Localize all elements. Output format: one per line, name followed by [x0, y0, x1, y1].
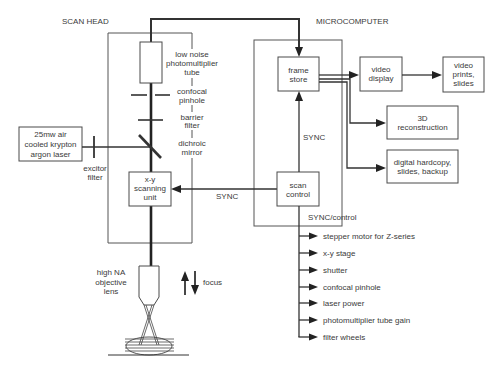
sync-to-scanner-label: SYNC [216, 192, 238, 201]
svg-text:video: video [371, 65, 391, 74]
arrow-right-icon [309, 267, 318, 274]
arrow-right-icon [309, 284, 318, 291]
svg-text:excitor: excitor [83, 164, 107, 173]
objective-lens [139, 266, 159, 305]
svg-text:3D: 3D [417, 114, 427, 123]
svg-text:display: display [369, 74, 394, 83]
arrow-right-icon [309, 300, 318, 307]
sync-to-frame-store-label: SYNC [303, 133, 325, 142]
svg-text:cooled krypton: cooled krypton [24, 140, 76, 149]
svg-text:stepper motor for Z-series: stepper motor for Z-series [323, 232, 415, 241]
confocal-pinhole-label: confocal pinhole [177, 87, 207, 105]
svg-text:slides: slides [453, 79, 473, 88]
svg-text:photomultiplier: photomultiplier [166, 59, 218, 68]
svg-text:reconstruction: reconstruction [397, 123, 447, 132]
scan-head-title: SCAN HEAD [62, 17, 109, 26]
svg-text:scanning: scanning [134, 184, 166, 193]
svg-text:confocal: confocal [177, 87, 207, 96]
sync-to-frame-store-connector [295, 91, 303, 172]
svg-text:filter: filter [184, 121, 199, 130]
sync-control-label: SYNC/control [308, 213, 357, 222]
svg-text:x-y stage: x-y stage [323, 249, 356, 258]
focus-arrows-icon [181, 271, 199, 295]
arrow-right-icon [309, 233, 318, 240]
control-output-item: shutter [299, 266, 348, 275]
arrow-right-icon [349, 71, 359, 79]
video-prints-label: video prints, slides [453, 61, 475, 88]
frame-store-to-video-display-connector [319, 71, 359, 79]
digital-hardcopy-label: digital hardcopy, slides, backup [394, 158, 452, 176]
photomultiplier-tube [140, 42, 162, 83]
focus-label: focus [203, 278, 222, 287]
svg-text:frame: frame [288, 66, 309, 75]
objective-lens-label: high NA objective lens [95, 268, 127, 296]
control-output-item: laser power [299, 299, 365, 308]
arrow-right-icon [309, 317, 318, 324]
svg-text:high NA: high NA [97, 268, 126, 277]
arrow-up-icon [295, 91, 303, 101]
arrow-right-icon [376, 164, 386, 172]
svg-text:store: store [290, 75, 308, 84]
arrow-right-icon [432, 71, 442, 79]
control-output-item: stepper motor for Z-series [299, 232, 415, 241]
arrow-right-icon [309, 250, 318, 257]
svg-text:video: video [454, 61, 474, 70]
excitor-filter-label: excitor filter [83, 164, 107, 182]
specimen [108, 337, 189, 355]
control-output-item: confocal pinhole [299, 283, 381, 292]
video-display-to-prints-connector [402, 71, 442, 79]
frame-store-to-hardcopy-connector [319, 82, 386, 172]
arrow-left-icon [171, 185, 181, 193]
control-output-item: photomultiplier tube gain [299, 316, 410, 325]
control-output-item: filter wheels [298, 333, 365, 342]
svg-text:argon laser: argon laser [30, 150, 70, 159]
svg-text:confocal pinhole: confocal pinhole [323, 283, 381, 292]
svg-text:pinhole: pinhole [179, 96, 205, 105]
pmt-to-frame-store-connector [151, 19, 303, 57]
svg-text:scan: scan [290, 181, 307, 190]
svg-text:mirror: mirror [182, 148, 203, 157]
arrow-right-icon [309, 334, 318, 341]
svg-text:digital hardcopy,: digital hardcopy, [394, 158, 452, 167]
arrow-down-icon [295, 47, 303, 57]
svg-text:lens: lens [104, 287, 119, 296]
photomultiplier-label: low noise photomultiplier tube [166, 50, 218, 77]
svg-text:tube: tube [184, 68, 200, 77]
svg-text:shutter: shutter [323, 266, 348, 275]
svg-text:control: control [286, 190, 310, 199]
svg-text:objective: objective [95, 278, 127, 287]
dichroic-mirror-label: dichroic mirror [178, 139, 206, 157]
arrow-right-icon [376, 119, 386, 127]
control-output-item: x-y stage [299, 249, 356, 258]
frame-store-label: frame store [288, 66, 309, 84]
svg-text:low noise: low noise [175, 50, 209, 59]
svg-text:x-y: x-y [145, 175, 156, 184]
svg-text:dichroic: dichroic [178, 139, 206, 148]
svg-text:prints,: prints, [453, 70, 475, 79]
microcomputer-title: MICROCOMPUTER [316, 17, 389, 26]
barrier-filter-label: barrier filter [180, 113, 203, 130]
svg-text:laser power: laser power [323, 299, 365, 308]
svg-text:photomultiplier tube gain: photomultiplier tube gain [323, 316, 410, 325]
svg-text:slides, backup: slides, backup [397, 167, 448, 176]
svg-text:25mw air: 25mw air [34, 130, 67, 139]
svg-text:unit: unit [144, 193, 158, 202]
svg-text:filter wheels: filter wheels [323, 333, 365, 342]
video-display-label: video display [369, 65, 394, 83]
svg-text:filter: filter [87, 173, 102, 182]
confocal-microscope-diagram: SCAN HEAD MICROCOMPUTER low noise photom… [0, 0, 497, 366]
